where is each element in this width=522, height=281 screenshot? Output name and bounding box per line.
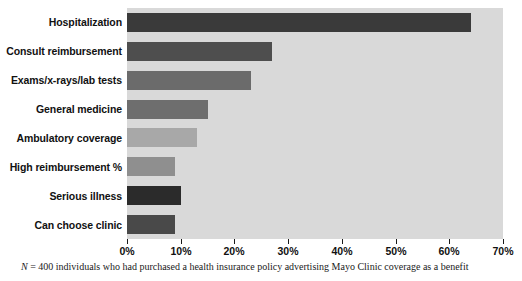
x-axis-tick: [234, 239, 235, 244]
x-axis-tick: [396, 239, 397, 244]
x-axis-tick-label: 10%: [161, 245, 201, 257]
x-axis-tick-label: 50%: [376, 245, 416, 257]
x-axis-tick: [503, 239, 504, 244]
x-axis-tick-label: 60%: [429, 245, 469, 257]
bar: [127, 13, 471, 32]
category-label: Serious illness: [0, 190, 122, 202]
x-axis-tick-label: 40%: [322, 245, 362, 257]
category-axis-labels: HospitalizationConsult reimbursementExam…: [0, 8, 122, 239]
bar: [127, 100, 208, 119]
category-label: General medicine: [0, 103, 122, 115]
x-axis-tick: [342, 239, 343, 244]
bar: [127, 128, 197, 147]
x-axis-tick-label: 30%: [268, 245, 308, 257]
bar: [127, 157, 175, 176]
category-label: Exams/x-rays/lab tests: [0, 74, 122, 86]
chart-footnote: N = 400 individuals who had purchased a …: [21, 261, 468, 272]
bar: [127, 186, 181, 205]
footnote-text: = 400 individuals who had purchased a he…: [28, 261, 469, 272]
category-label: Ambulatory coverage: [0, 132, 122, 144]
x-axis-tick: [288, 239, 289, 244]
bar: [127, 71, 251, 90]
x-axis-tick: [127, 239, 128, 244]
x-axis-tick-label: 70%: [483, 245, 522, 257]
x-axis-tick-label: 20%: [214, 245, 254, 257]
category-label: Hospitalization: [0, 16, 122, 28]
x-axis-tick-label: 0%: [107, 245, 147, 257]
category-label: Can choose clinic: [0, 219, 122, 231]
bar: [127, 215, 175, 234]
x-axis: 0%10%20%30%40%50%60%70%: [127, 239, 503, 259]
plot-area: [127, 8, 503, 239]
x-axis-tick: [181, 239, 182, 244]
category-label: Consult reimbursement: [0, 45, 122, 57]
x-axis-tick: [449, 239, 450, 244]
footnote-n-symbol: N: [21, 261, 28, 272]
bar-chart: HospitalizationConsult reimbursementExam…: [0, 0, 522, 281]
bar: [127, 42, 272, 61]
category-label: High reimbursement %: [0, 161, 122, 173]
